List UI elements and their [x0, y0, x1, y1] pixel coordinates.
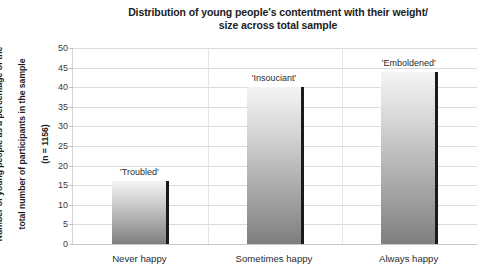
x-axis-category-label: Never happy	[112, 253, 166, 265]
y-axis-tick-mark	[69, 146, 73, 147]
y-axis-tick-label: 25	[38, 141, 68, 151]
y-axis-tick-label: 0	[38, 239, 68, 249]
bar	[381, 72, 438, 244]
y-axis-tick-label: 30	[38, 121, 68, 131]
y-axis-title-line-2: total number of participants in the samp…	[17, 59, 27, 230]
y-axis-tick-labels: 50454035302520151050	[38, 42, 68, 250]
chart-title-line-1: Distribution of young people's contentme…	[78, 6, 478, 19]
y-axis-tick-mark	[69, 166, 73, 167]
y-axis-tick-mark	[69, 68, 73, 69]
bar-annotation: 'Emboldened'	[382, 58, 436, 69]
bar-annotation: 'Insouciant'	[252, 73, 296, 84]
gridline	[73, 244, 477, 245]
y-axis-tick-label: 20	[38, 161, 68, 171]
y-axis-tick-label: 45	[38, 63, 68, 73]
y-axis-tick-mark	[69, 224, 73, 225]
x-axis-category-label: Always happy	[379, 253, 438, 265]
y-axis-tick-mark	[69, 244, 73, 245]
bar	[247, 87, 304, 244]
y-axis-tick-mark	[69, 48, 73, 49]
chart-title: Distribution of young people's contentme…	[78, 6, 478, 32]
y-axis-tick-mark	[69, 205, 73, 206]
category-divider	[208, 48, 209, 244]
y-axis-tick-mark	[69, 87, 73, 88]
category-divider	[342, 48, 343, 244]
y-axis-tick-mark	[69, 107, 73, 108]
y-axis-tick-label: 15	[38, 180, 68, 190]
y-axis-tick-mark	[69, 185, 73, 186]
y-axis-tick-label: 10	[38, 200, 68, 210]
bar	[112, 181, 169, 244]
x-axis-category-label: Sometimes happy	[236, 253, 313, 265]
gridline	[73, 48, 477, 49]
y-axis-tick-label: 5	[38, 219, 68, 229]
y-axis-tick-label: 35	[38, 102, 68, 112]
y-axis-tick-mark	[69, 126, 73, 127]
bar-chart: Distribution of young people's contentme…	[0, 0, 485, 280]
y-axis-tick-label: 40	[38, 82, 68, 92]
y-axis-tick-label: 50	[38, 43, 68, 53]
bar-annotation: 'Troubled'	[120, 167, 159, 178]
y-axis-title: Number of young people as a percentage o…	[0, 40, 34, 248]
chart-title-line-2: size across total sample	[78, 19, 478, 32]
y-axis-title-line-1: Number of young people as a percentage o…	[0, 47, 4, 241]
